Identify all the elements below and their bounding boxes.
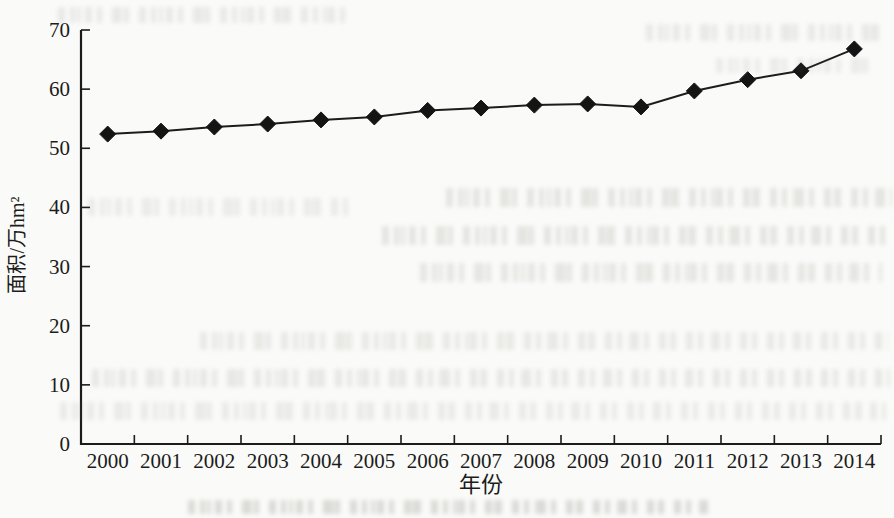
x-axis-tick-label: 2012	[727, 449, 769, 473]
x-axis-tick-label: 2006	[407, 449, 449, 473]
x-axis-tick-label: 2011	[674, 449, 715, 473]
data-point-2014	[846, 41, 862, 57]
data-point-2000	[100, 126, 116, 142]
data-point-2012	[740, 72, 756, 88]
y-axis-tick-label: 60	[49, 77, 70, 101]
y-axis-tick-label: 40	[49, 195, 70, 219]
data-point-2011	[686, 83, 702, 99]
scanned-page: 0102030405060702000200120022003200420052…	[0, 0, 894, 518]
x-axis-tick-label: 2013	[780, 449, 822, 473]
x-axis-tick-label: 2008	[513, 449, 555, 473]
data-point-2013	[793, 63, 809, 79]
y-axis-tick-label: 0	[60, 432, 71, 456]
x-axis-tick-label: 2003	[247, 449, 289, 473]
axes	[81, 30, 881, 444]
series-line	[108, 49, 855, 134]
data-point-2005	[366, 109, 382, 125]
data-point-2007	[473, 100, 489, 116]
data-point-2004	[313, 112, 329, 128]
y-axis-tick-label: 50	[49, 136, 70, 160]
y-axis-tick-label: 30	[49, 255, 70, 279]
y-axis-title: 面积/万hm²	[6, 196, 28, 293]
data-point-2003	[260, 116, 276, 132]
area-line-chart: 0102030405060702000200120022003200420052…	[0, 0, 894, 518]
x-axis-tick-label: 2005	[353, 449, 395, 473]
x-axis-tick-label: 2004	[300, 449, 343, 473]
data-point-2001	[153, 123, 169, 139]
x-axis-title: 年份	[459, 472, 503, 497]
x-axis-tick-label: 2014	[833, 449, 876, 473]
y-axis-tick-label: 70	[49, 18, 70, 42]
data-point-2010	[633, 99, 649, 115]
x-axis-tick-label: 2010	[620, 449, 662, 473]
data-point-2002	[206, 119, 222, 135]
x-axis-tick-label: 2007	[460, 449, 502, 473]
y-axis-tick-label: 10	[49, 373, 70, 397]
data-point-2008	[526, 97, 542, 113]
data-point-2009	[580, 96, 596, 112]
x-axis-tick-label: 2000	[87, 449, 129, 473]
x-axis-tick-label: 2001	[140, 449, 182, 473]
x-axis-tick-label: 2009	[567, 449, 609, 473]
y-axis-tick-label: 20	[49, 314, 70, 338]
x-axis-tick-label: 2002	[193, 449, 235, 473]
data-point-2006	[420, 102, 436, 118]
